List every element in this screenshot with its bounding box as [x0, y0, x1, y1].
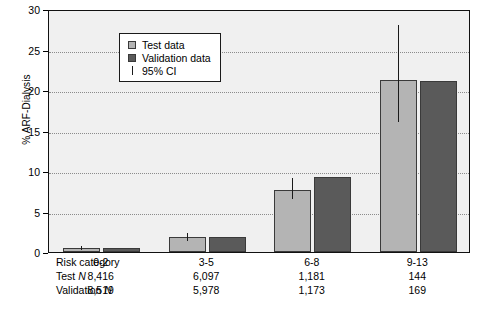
bar-validation-0-2: [103, 248, 140, 252]
legend-item-validation-data: Validation data: [126, 51, 211, 64]
y-tick-mark: [43, 253, 48, 254]
table-cell: 6-8: [272, 256, 352, 268]
y-tick-label: 10: [14, 167, 40, 177]
y-tick-label: 15: [14, 127, 40, 137]
legend-label-test-data: Test data: [142, 39, 185, 51]
error-bar-6-8: [292, 178, 293, 199]
legend-label-confidence-interval: 95% CI: [142, 65, 176, 77]
category-data-table: Risk category0-23-56-89-13Test N8,4166,0…: [0, 256, 485, 298]
gridline: [49, 52, 469, 53]
plot-area: Test data Validation data 95% CI: [48, 10, 470, 253]
table-row: Risk category0-23-56-89-13: [0, 256, 485, 270]
error-bar-9-13: [398, 25, 399, 122]
table-cell: 6,097: [166, 270, 246, 282]
table-row: Validation N8,5195,9781,173169: [0, 284, 485, 298]
bar-validation-6-8: [314, 177, 351, 252]
table-cell: 3-5: [166, 256, 246, 268]
legend-item-test-data: Test data: [126, 38, 211, 51]
y-tick-label: 20: [14, 86, 40, 96]
table-cell: 0-2: [61, 256, 141, 268]
table-cell: 8,416: [61, 270, 141, 282]
table-cell: 169: [377, 284, 457, 296]
bar-test-6-8: [274, 190, 311, 252]
legend-label-validation-data: Validation data: [142, 52, 211, 64]
table-cell: 9-13: [377, 256, 457, 268]
legend-swatch-test-data-icon: [128, 41, 136, 49]
table-cell: 5,978: [166, 284, 246, 296]
table-cell: 1,173: [272, 284, 352, 296]
table-cell: 1,181: [272, 270, 352, 282]
legend-error-bar-icon: [128, 66, 136, 75]
y-tick-label: 5: [14, 208, 40, 218]
error-bar-0-2: [81, 246, 82, 250]
y-tick-label: 25: [14, 46, 40, 56]
table-cell: 8,519: [61, 284, 141, 296]
y-tick-label: 30: [14, 5, 40, 15]
table-cell: 144: [377, 270, 457, 282]
chart-legend: Test data Validation data 95% CI: [119, 33, 221, 82]
bar-validation-9-13: [420, 81, 457, 252]
legend-swatch-validation-data-icon: [128, 54, 136, 62]
bar-validation-3-5: [209, 237, 246, 252]
legend-item-confidence-interval: 95% CI: [126, 64, 211, 77]
table-row: Test N8,4166,0971,181144: [0, 270, 485, 284]
error-bar-3-5: [187, 233, 188, 241]
chart-figure: % ARF-Dialysis 051015202530 Test data Va…: [0, 0, 485, 311]
